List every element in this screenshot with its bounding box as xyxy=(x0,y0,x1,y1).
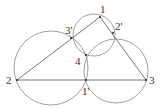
point-2-prime xyxy=(112,32,114,34)
point-3-prime xyxy=(70,37,72,39)
point-4 xyxy=(85,54,87,56)
label-1: 1 xyxy=(100,3,106,15)
point-1-prime xyxy=(85,79,87,81)
label-3: 3 xyxy=(149,74,155,86)
point-2 xyxy=(16,79,18,81)
label-1-prime: 1' xyxy=(82,85,90,97)
point-3 xyxy=(145,79,147,81)
label-3-prime: 3' xyxy=(65,24,73,36)
label-2: 2 xyxy=(6,74,12,86)
point-1 xyxy=(99,16,101,18)
left-circle xyxy=(14,31,88,105)
label-2-prime: 2' xyxy=(115,20,123,32)
miquel-diagram: 1 2 3 1' 2' 3' 4 xyxy=(0,0,162,109)
small-circle xyxy=(73,14,115,56)
right-circle xyxy=(84,39,148,103)
label-4: 4 xyxy=(75,55,81,67)
